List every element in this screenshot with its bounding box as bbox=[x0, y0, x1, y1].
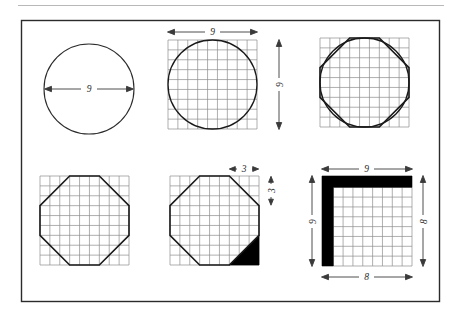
panel2-width-label: 9 bbox=[210, 27, 215, 37]
panel6-right-label: 8 bbox=[419, 219, 429, 224]
geometry-figure: 9 bbox=[0, 0, 461, 319]
panel5-corner-height-label: 3 bbox=[267, 188, 277, 194]
panel1-diameter-label: 9 bbox=[87, 84, 92, 94]
panel6-top-label: 9 bbox=[364, 164, 369, 174]
panel2-height-label: 9 bbox=[275, 82, 285, 87]
panel6-bottom-label: 8 bbox=[364, 272, 369, 282]
panel5-corner-width-label: 3 bbox=[241, 164, 247, 174]
figure-root: 9 bbox=[0, 0, 461, 319]
panel6-left-label: 9 bbox=[308, 219, 318, 224]
